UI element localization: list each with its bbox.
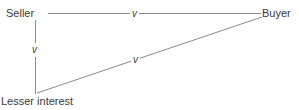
edge-label-seller-buyer: v <box>130 9 139 19</box>
node-buyer: Buyer <box>262 7 291 20</box>
node-lesser-interest: Lesser interest <box>1 95 73 108</box>
triangle-relationship-diagram: Seller Buyer Lesser interest v v v <box>0 0 299 110</box>
edge-label-lesser-interest-buyer: v <box>131 55 140 65</box>
edges-layer <box>0 0 299 110</box>
edge-lesser-interest-buyer <box>37 17 262 93</box>
edge-label-seller-lesser-interest: v <box>32 43 37 57</box>
node-seller: Seller <box>6 7 34 20</box>
